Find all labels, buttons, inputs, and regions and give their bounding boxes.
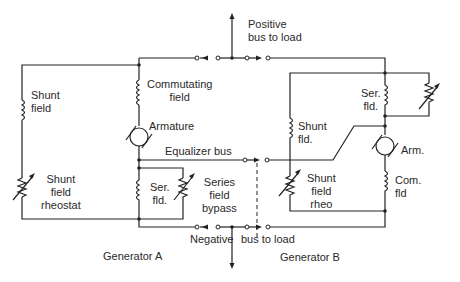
gen-a-shunt-rheostat — [18, 178, 26, 197]
gen-b-series-field-bypass — [385, 83, 433, 116]
gen-a-shunt-rheostat-label: Shunt field rheostat — [41, 173, 81, 212]
gen-b-commutating-field-label: Com. fld — [395, 174, 421, 200]
gen-a-shunt-field-label: Shunt field — [31, 89, 60, 115]
positive-bus-label: Positive bus to load — [248, 18, 302, 44]
negative-bus-label: Negative — [190, 233, 233, 246]
gen-b-commutating-field-coil — [385, 171, 388, 211]
gen-a-commutating-field-label: Commutating field — [147, 78, 212, 104]
gen-a-commutating-field-coil — [137, 80, 140, 105]
gen-b-shunt-rheo-label: Shunt field rheo — [307, 172, 336, 211]
gen-a-series-bypass-label: Series field bypass — [202, 176, 237, 215]
gen-a-armature-label: Armature — [149, 120, 194, 133]
gen-b-shunt-field-coil — [290, 118, 293, 176]
equalizer-bus-label: Equalizer bus — [165, 145, 232, 158]
gen-a-series-field-label: Ser. fld. — [150, 181, 170, 207]
generator-b-label: Generator B — [280, 251, 340, 264]
bus-to-load-label: bus to load — [241, 233, 295, 246]
gen-b-armature-label: Arm. — [401, 144, 424, 157]
gen-b-series-field-label: Ser. fld. — [361, 87, 381, 113]
generator-a-label: Generator A — [103, 250, 162, 263]
gen-b-series-field-coil — [385, 73, 388, 116]
gen-b-shunt-field-label: Shunt fld. — [298, 120, 327, 146]
gen-a-shunt-field-coil — [22, 100, 25, 120]
gen-a-series-field-coil — [137, 168, 140, 219]
